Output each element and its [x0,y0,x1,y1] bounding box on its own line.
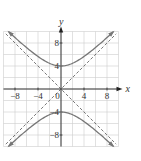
x-tick-label: −4 [33,91,43,101]
x-tick-label: 0 [55,91,60,101]
y-axis-label: y [58,16,64,27]
y-tick-label: 8 [55,38,60,48]
y-tick-label: −8 [49,130,59,140]
y-axis-arrow-icon [59,27,63,33]
x-tick-label: 8 [105,91,110,101]
x-tick-label: 4 [82,91,87,101]
hyperbola-chart: −8−4048−8−448xy [0,0,141,161]
x-axis-label: x [125,83,131,94]
y-tick-label: 4 [55,61,60,71]
x-axis-arrow-icon [117,87,123,91]
y-tick-label: −4 [49,107,59,117]
x-tick-label: −8 [10,91,20,101]
